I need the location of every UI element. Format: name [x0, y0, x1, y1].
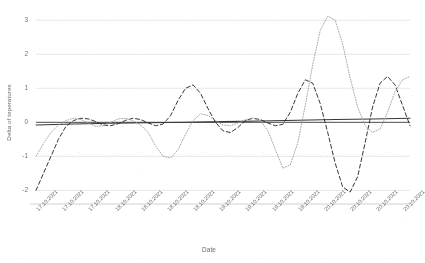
- y-tick-label: 0: [12, 118, 28, 125]
- x-axis-title: Date: [0, 246, 418, 253]
- series-line-solid-flat: [36, 118, 410, 125]
- series-line-dashed-oscillation: [36, 76, 410, 192]
- y-axis-title: Delta of teperatures: [2, 52, 14, 172]
- y-axis-title-text: Delta of teperatures: [5, 84, 12, 140]
- y-tick-label: 2: [12, 50, 28, 57]
- x-axis-title-text: Date: [202, 246, 216, 253]
- gridlines: [36, 20, 410, 190]
- y-tick-label: -2: [12, 186, 28, 193]
- y-tick-label: 1: [12, 84, 28, 91]
- series-group: [36, 16, 410, 192]
- y-tick-label: 3: [12, 16, 28, 23]
- series-line-dotted-oscillation: [36, 16, 410, 168]
- y-tick-label: -1: [12, 152, 28, 159]
